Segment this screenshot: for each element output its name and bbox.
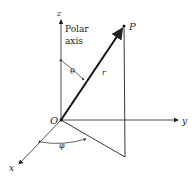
x-axis xyxy=(19,120,61,164)
y-axis-label: y xyxy=(181,116,188,126)
projection-vertical xyxy=(124,26,125,157)
point-p-label: P xyxy=(128,21,136,32)
projection-xy xyxy=(61,120,125,157)
origin-dot xyxy=(60,119,63,122)
radius-label: r xyxy=(102,68,107,77)
z-axis-label: z xyxy=(56,9,62,18)
spherical-coordinates-diagram: z Polar axis P θ r O y φ x xyxy=(0,0,195,178)
phi-label: φ xyxy=(59,141,65,150)
x-axis-label: x xyxy=(9,163,14,173)
origin-label: O xyxy=(50,115,58,126)
theta-label: θ xyxy=(70,67,75,76)
polar-axis-label-line1: Polar xyxy=(65,24,89,34)
polar-axis-label-line2: axis xyxy=(65,36,83,46)
